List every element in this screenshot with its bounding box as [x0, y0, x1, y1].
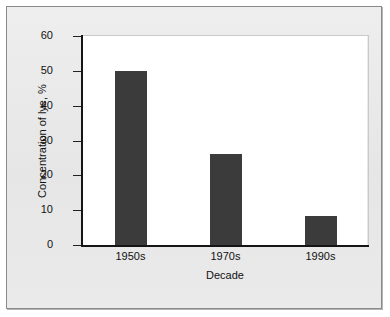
y-axis-tick: [73, 210, 81, 211]
figure-background: 0102030405060 1950s1970s1990s Decade Con…: [7, 7, 381, 308]
x-axis-tick-label: 1970s: [191, 251, 261, 262]
bar: [115, 71, 147, 245]
y-axis-tick-label: 60: [19, 30, 53, 41]
bar: [305, 216, 337, 245]
x-axis-tick-label: 1950s: [96, 251, 166, 262]
x-axis-tick-label: 1990s: [286, 251, 356, 262]
bar: [210, 154, 242, 245]
y-axis-tick-label: 0: [19, 239, 53, 250]
y-axis-tick: [73, 175, 81, 176]
y-axis-tick: [73, 141, 81, 142]
y-axis-tick: [73, 245, 81, 246]
bar-series: [83, 36, 368, 245]
x-axis-line: [81, 245, 369, 247]
y-axis-title: Concentration of lye, %: [36, 61, 48, 221]
x-axis-title: Decade: [81, 269, 369, 281]
plot-frame-right-edge: [368, 35, 369, 246]
figure-frame: 0102030405060 1950s1970s1990s Decade Con…: [6, 6, 382, 309]
y-axis-tick: [73, 71, 81, 72]
y-axis-tick: [73, 106, 81, 107]
y-axis-tick: [73, 36, 81, 37]
